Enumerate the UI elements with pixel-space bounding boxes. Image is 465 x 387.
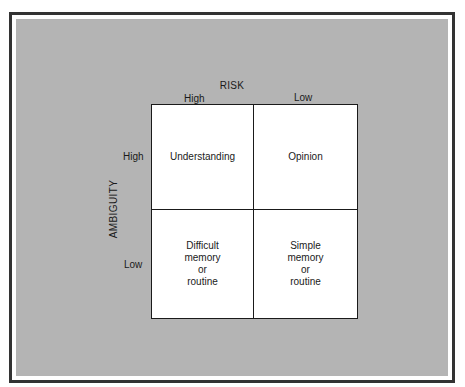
y-axis-title: AMBIGUITY [108,180,119,239]
x-axis-title: RISK [16,80,448,91]
y-axis-label-high: High [123,151,144,162]
cell-opinion: Opinion [254,105,357,210]
risk-ambiguity-matrix: Understanding Opinion Difficult memory o… [151,104,358,319]
cell-simple-memory-routine: Simple memory or routine [254,210,357,318]
figure-frame: RISK High Low AMBIGUITY High Low Underst… [9,12,455,383]
cell-understanding: Understanding [152,105,254,210]
x-axis-label-high: High [184,93,205,104]
figure-panel: RISK High Low AMBIGUITY High Low Underst… [16,19,448,376]
y-axis-label-low: Low [124,259,142,270]
cell-difficult-memory-routine: Difficult memory or routine [152,210,254,318]
x-axis-label-low: Low [294,92,312,103]
